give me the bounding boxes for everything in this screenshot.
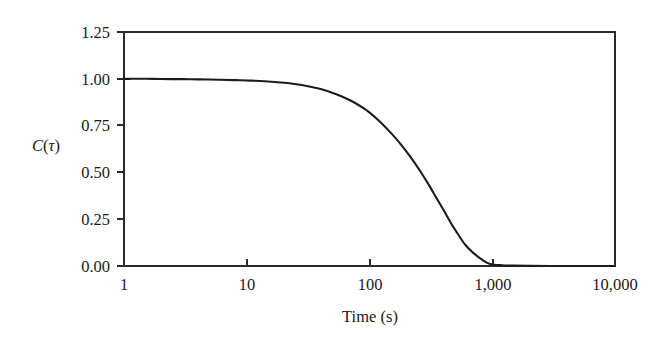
x-tick-label-100: 100 [358,275,383,294]
y-axis-title-close-paren: ) [54,136,60,155]
y-tick-label-1.00: 1.00 [81,70,110,89]
x-tick-label-1: 1 [120,275,128,294]
x-axis-title: Time (s) [342,307,398,326]
y-axis-title: C(τ) [32,136,60,155]
x-tick-label-1000: 1,000 [474,275,511,294]
chart-figure: 1.25 1.00 0.75 0.50 0.25 0.00 1 10 100 1… [0,0,662,346]
y-tick-label-0.50: 0.50 [81,163,110,182]
x-tick-label-10: 10 [239,275,256,294]
y-axis-title-text: C(τ) [32,136,60,155]
y-tick-label-0.00: 0.00 [81,257,110,276]
y-tick-label-0.75: 0.75 [81,116,110,135]
x-tick-label-10000: 10,000 [592,275,637,294]
autocorrelation-decay-chart: 1.25 1.00 0.75 0.50 0.25 0.00 1 10 100 1… [0,0,662,346]
y-tick-label-0.25: 0.25 [81,210,110,229]
y-tick-label-1.25: 1.25 [81,23,110,42]
